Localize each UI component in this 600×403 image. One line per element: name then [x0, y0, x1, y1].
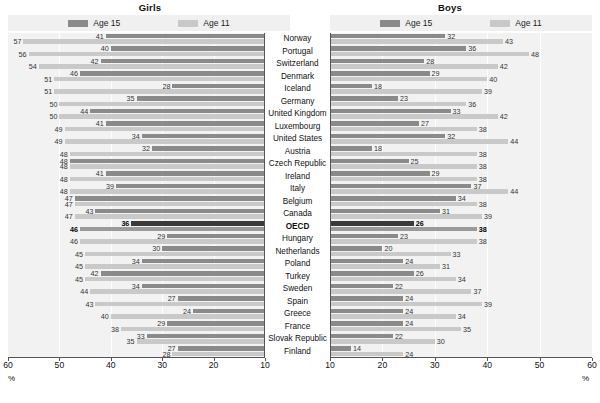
- bar-age11: [330, 102, 466, 107]
- bar-row: 2938: [330, 171, 592, 183]
- bar-row: 2431: [330, 258, 592, 270]
- bar-age11: [121, 327, 265, 332]
- bar-age15: [330, 234, 398, 239]
- category-label: Greece: [265, 308, 330, 320]
- value-label-age11: 57: [13, 38, 21, 45]
- bar-row: 3648: [330, 46, 592, 58]
- axis-tick-label: 30: [157, 360, 167, 370]
- bar-row: 2439: [330, 296, 592, 308]
- category-label: Italy: [265, 183, 330, 195]
- axis-unit-boys: %: [582, 374, 589, 383]
- bar-age15: [131, 221, 265, 226]
- value-label-age11: 35: [127, 338, 135, 345]
- value-label-age11: 44: [510, 138, 518, 145]
- bar-rows-boys: 3243364828422940183923363342273832441838…: [330, 33, 592, 358]
- axis-tick-label: 60: [587, 360, 597, 370]
- bar-age11: [70, 164, 265, 169]
- bar-age11: [330, 239, 477, 244]
- bar-age15: [147, 334, 265, 339]
- legend-item-age15: Age 15: [68, 18, 120, 28]
- bar-row: 4347: [8, 208, 265, 220]
- bar-row: 2946: [8, 233, 265, 245]
- value-label-age11: 42: [500, 63, 508, 70]
- category-label: Portugal: [265, 46, 330, 58]
- axis-tick-label: 10: [325, 360, 335, 370]
- category-label: Canada: [265, 208, 330, 220]
- bar-age11: [75, 214, 265, 219]
- value-label-age11: 35: [463, 326, 471, 333]
- category-label: Finland: [265, 346, 330, 358]
- value-label-age11: 50: [49, 113, 57, 120]
- bar-row: 2230: [330, 333, 592, 345]
- bar-age11: [330, 89, 482, 94]
- axis-tick-labels-boys: 102030405060: [330, 360, 592, 374]
- bar-age11: [70, 189, 265, 194]
- plot-area-boys: 3243364828422940183923363342273832441838…: [330, 33, 592, 358]
- bar-age15: [152, 146, 265, 151]
- value-label-age11: 47: [65, 213, 73, 220]
- bar-age15: [142, 284, 265, 289]
- bar-age15: [330, 84, 372, 89]
- value-label-age11: 38: [479, 238, 487, 245]
- bar-row: 4056: [8, 46, 265, 58]
- bar-row: 3444: [8, 283, 265, 295]
- category-label: Belgium: [265, 196, 330, 208]
- bar-age15: [162, 246, 265, 251]
- bar-age15: [330, 146, 372, 151]
- axis-unit-girls: %: [8, 374, 15, 383]
- bar-age11: [70, 152, 265, 157]
- bar-rows-girls: 4157405642544651285135504450414934493248…: [8, 33, 265, 358]
- bar-age11: [330, 214, 482, 219]
- bar-age11: [111, 314, 265, 319]
- bar-age11: [85, 277, 265, 282]
- bar-age15: [330, 171, 430, 176]
- legend-girls: Age 15 Age 11: [8, 15, 290, 31]
- value-label-age11: 39: [484, 213, 492, 220]
- bar-age11: [59, 102, 265, 107]
- value-label-age11: 40: [489, 76, 497, 83]
- bar-age15: [142, 134, 265, 139]
- bar-age11: [330, 77, 487, 82]
- value-label-age11: 40: [101, 313, 109, 320]
- panel-title-boys: Boys: [300, 2, 600, 13]
- bar-age15: [330, 159, 409, 164]
- category-label: Poland: [265, 258, 330, 270]
- bar-age11: [59, 114, 265, 119]
- bar-age11: [80, 227, 265, 232]
- panel-title-girls: Girls: [0, 2, 300, 13]
- bar-age11: [330, 64, 498, 69]
- bar-age15: [330, 134, 445, 139]
- axis-tick-label: 10: [260, 360, 270, 370]
- bar-age15: [330, 71, 430, 76]
- bar-row: 2434: [330, 308, 592, 320]
- value-label-age11: 46: [70, 226, 78, 233]
- value-label-age11: 44: [510, 188, 518, 195]
- legend-swatch-age11-icon: [178, 20, 198, 27]
- axis-tick-label: 40: [106, 360, 116, 370]
- gridline: [592, 33, 593, 358]
- bar-row: 3248: [8, 146, 265, 158]
- value-label-age11: 45: [75, 276, 83, 283]
- value-label-age11: 48: [60, 163, 68, 170]
- bar-age15: [106, 34, 265, 39]
- bar-row: 4450: [8, 108, 265, 120]
- bar-age15: [330, 196, 456, 201]
- value-label-age11: 30: [437, 338, 445, 345]
- bar-row: 2743: [8, 296, 265, 308]
- bar-age11: [330, 39, 503, 44]
- value-label-age11: 37: [473, 288, 481, 295]
- legend-label-age11: Age 11: [515, 18, 541, 28]
- bar-row: 4148: [8, 171, 265, 183]
- bar-age15: [330, 34, 445, 39]
- value-label-age11: 44: [80, 288, 88, 295]
- bar-age11: [330, 289, 471, 294]
- value-label-age11: 39: [484, 301, 492, 308]
- bar-age15: [330, 184, 471, 189]
- bar-row: 2940: [330, 71, 592, 83]
- chart-figure: Girls Boys Age 15 Age 11 Age 15 Age 11 4…: [0, 0, 600, 403]
- bar-age11: [80, 239, 265, 244]
- legend-boys: Age 15 Age 11: [330, 15, 592, 31]
- bar-age15: [116, 184, 265, 189]
- value-label-age11: 49: [55, 126, 63, 133]
- axis-tick-label: 60: [3, 360, 13, 370]
